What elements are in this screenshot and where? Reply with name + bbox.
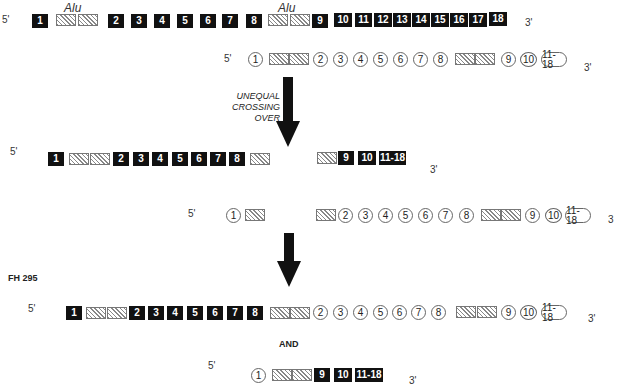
alu-repeat	[90, 153, 110, 165]
exon-11-18-circle: 11-18	[565, 208, 591, 223]
down-arrow-icon	[276, 77, 300, 147]
exon-14: 14	[412, 13, 430, 27]
exon-8: 8	[247, 306, 263, 320]
exon-9-circle: 9	[525, 208, 540, 223]
alu-repeat	[456, 306, 476, 318]
exon-10: 10	[334, 13, 352, 27]
exon-10-circle: 10	[520, 52, 537, 67]
crossing-over-caption: UNEQUAL CROSSING OVER	[208, 91, 280, 124]
exon-6-circle: 6	[418, 208, 433, 223]
three-prime-label: 3'	[409, 375, 416, 386]
exon-8-circle: 8	[433, 52, 448, 67]
exon-1-circle: 1	[248, 52, 263, 67]
three-prime-label: 3'	[584, 62, 591, 73]
exon-5: 5	[177, 14, 193, 28]
alu-repeat	[250, 153, 270, 165]
exon-7-circle: 7	[413, 52, 428, 67]
alu-label: Alu	[278, 1, 295, 15]
alu-repeat	[292, 369, 312, 381]
exon-1-circle: 1	[251, 368, 266, 383]
exon-11-18-circle: 11-18	[541, 305, 567, 320]
alu-repeat	[268, 14, 288, 26]
exon-11-18-circle: 11-18	[541, 52, 567, 67]
alu-repeat	[107, 307, 127, 319]
three-prime-label: 3'	[525, 17, 532, 28]
alu-repeat	[290, 307, 310, 319]
exon-3-circle: 3	[358, 208, 373, 223]
exon-6: 6	[207, 306, 223, 320]
alu-repeat	[455, 53, 475, 65]
exon-4: 4	[154, 14, 170, 28]
exon-9-circle: 9	[501, 52, 516, 67]
exon-2: 2	[108, 14, 124, 28]
alu-repeat	[270, 307, 290, 319]
exon-3: 3	[131, 14, 147, 28]
exon-7-circle: 7	[438, 208, 453, 223]
exon-3: 3	[133, 152, 149, 166]
exon-12: 12	[374, 13, 392, 27]
exon-10: 10	[334, 368, 352, 382]
exon-11-18: 11-18	[379, 151, 406, 165]
exon-4: 4	[152, 152, 168, 166]
exon-7-circle: 7	[411, 305, 426, 320]
exon-10-circle: 10	[520, 305, 537, 320]
exon-5-circle: 5	[373, 305, 388, 320]
exon-1: 1	[32, 14, 48, 28]
exon-2: 2	[113, 152, 129, 166]
alu-repeat	[317, 152, 337, 164]
alu-repeat	[56, 14, 76, 26]
five-prime-label: 5'	[208, 360, 215, 371]
exon-5-circle: 5	[373, 52, 388, 67]
three-prime-label: 3'	[588, 313, 595, 324]
exon-2-circle: 2	[338, 208, 353, 223]
five-prime-label: 5'	[2, 14, 9, 25]
exon-9: 9	[312, 14, 328, 28]
five-prime-label: 5'	[10, 146, 17, 157]
exon-4: 4	[167, 306, 183, 320]
exon-9: 9	[338, 151, 354, 165]
exon-13: 13	[393, 13, 411, 27]
alu-repeat	[272, 369, 292, 381]
exon-1: 1	[66, 306, 82, 320]
alu-repeat	[290, 14, 310, 26]
exon-6-circle: 6	[393, 52, 408, 67]
exon-16: 16	[450, 13, 468, 27]
alu-repeat	[481, 209, 501, 221]
alu-repeat	[69, 153, 89, 165]
exon-3: 3	[148, 306, 164, 320]
exon-11-18: 11-18	[355, 368, 383, 382]
exon-3-circle: 3	[333, 52, 348, 67]
exon-4-circle: 4	[353, 305, 368, 320]
exon-18: 18	[489, 12, 507, 26]
exon-4-circle: 4	[353, 52, 368, 67]
five-prime-label: 5'	[28, 303, 35, 314]
alu-repeat	[477, 306, 497, 318]
alu-repeat	[245, 209, 265, 221]
alu-repeat	[289, 53, 309, 65]
exon-2: 2	[129, 306, 145, 320]
exon-1-circle: 1	[226, 208, 241, 223]
exon-15: 15	[431, 13, 449, 27]
exon-3-circle: 3	[333, 305, 348, 320]
alu-repeat	[269, 53, 289, 65]
five-prime-label: 5'	[188, 208, 195, 219]
exon-8: 8	[246, 14, 262, 28]
alu-label: Alu	[64, 1, 81, 15]
alu-repeat	[86, 307, 106, 319]
exon-6-circle: 6	[392, 305, 407, 320]
exon-9: 9	[314, 368, 330, 382]
alu-repeat	[501, 209, 521, 221]
exon-1: 1	[48, 152, 64, 166]
down-arrow-icon	[277, 233, 301, 287]
exon-8-circle: 8	[431, 305, 446, 320]
exon-9-circle: 9	[501, 305, 516, 320]
exon-5-circle: 5	[398, 208, 413, 223]
exon-5: 5	[187, 306, 203, 320]
alu-repeat	[475, 53, 495, 65]
exon-10: 10	[358, 151, 376, 165]
fh-295-label: FH 295	[8, 273, 38, 283]
alu-repeat	[316, 209, 336, 221]
exon-10-circle: 10	[545, 208, 562, 223]
exon-7: 7	[222, 14, 238, 28]
exon-8-circle: 8	[459, 208, 474, 223]
